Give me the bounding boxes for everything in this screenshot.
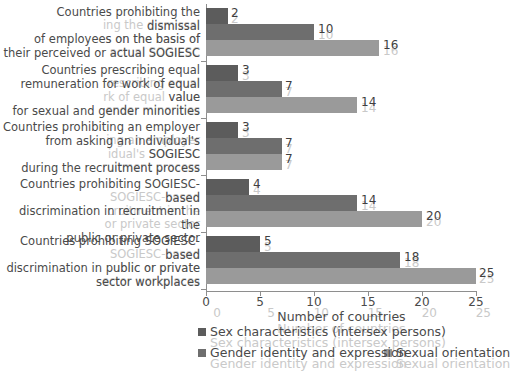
- value-label-2-0: 33: [242, 121, 250, 133]
- value-label-3-1: 1414: [361, 194, 376, 206]
- bar-sexual-orientation-2: [206, 154, 282, 170]
- bar-sex-characteristics-4: [206, 236, 260, 252]
- category-label-4-line-1: discrimination in public or private: [6, 261, 200, 275]
- legend-swatch-icon-gender-identity: [198, 349, 206, 357]
- bar-sexual-orientation-0: [206, 40, 379, 56]
- category-label-0-line-2: their perceived or actual SOGIESC: [4, 46, 200, 60]
- value-label-1-0: 33: [242, 64, 250, 76]
- value-label-4-1: 1818: [404, 251, 419, 263]
- category-label-4-line-2: sector workplaces: [96, 275, 200, 289]
- value-label-1-1: 77: [285, 80, 293, 92]
- category-label-0-line-0: Countries prohibiting the dismissal: [57, 5, 200, 33]
- bar-gender-identity-4: [206, 252, 400, 268]
- category-label-3-line-0: Countries prohibiting SOGIESC-based: [20, 177, 200, 205]
- x-tick-label-20: 2020: [407, 296, 437, 308]
- x-axis-title: Number of countries Number of countries: [206, 310, 477, 323]
- x-axis-line: [206, 291, 477, 292]
- bar-gender-identity-2: [206, 138, 282, 154]
- category-label-4: Countries prohibiting SOGIESC-based disc…: [2, 235, 200, 289]
- x-tick-label-15: 1515: [353, 296, 383, 308]
- bar-sex-characteristics-0: [206, 8, 228, 24]
- x-tick-label-0: 00: [191, 296, 221, 308]
- x-tick-label-5: 55: [245, 296, 275, 308]
- bar-sex-characteristics-1: [206, 65, 238, 81]
- category-label-1-line-1: remuneration for work of equal value: [21, 77, 200, 105]
- bar-sexual-orientation-1: [206, 97, 357, 113]
- value-label-0-1: 1010: [318, 23, 333, 35]
- plot-area: 22 1010 1616 33 77 1414 33 77 77 44: [206, 4, 476, 290]
- value-label-2-2: 77: [285, 153, 293, 165]
- value-label-1-2: 1414: [361, 96, 376, 108]
- category-label-2-line-2: during the recruitment process: [21, 161, 200, 175]
- category-label-1-line-2: for sexual and gender minorities: [13, 104, 200, 118]
- legend-item-sex-characteristics[interactable]: Sex characteristics (intersex persons)Se…: [198, 325, 446, 338]
- legend-item-sexual-orientation[interactable]: Sexual orientationSexual orientation: [384, 346, 510, 359]
- value-label-4-0: 55: [264, 235, 272, 247]
- bar-gender-identity-3: [206, 195, 357, 211]
- legend-label-gender-identity: Gender identity and expression: [210, 345, 407, 360]
- legend-label-sex-characteristics: Sex characteristics (intersex persons): [210, 324, 446, 339]
- x-tick-label-10: 1010: [299, 296, 329, 308]
- category-label-2-line-0: Countries prohibiting an employer: [3, 120, 200, 134]
- category-label-0: Countries prohibiting the dismissal of e…: [2, 6, 200, 60]
- category-label-4-line-0: Countries prohibiting SOGIESC-based: [20, 234, 200, 262]
- legend-label-sexual-orientation: Sexual orientation: [396, 345, 510, 360]
- bar-gender-identity-1: [206, 81, 282, 97]
- category-label-2-line-1: from asking an individual's SOGIESC: [45, 134, 200, 162]
- x-tick-label-25: 2525: [461, 296, 491, 308]
- value-label-0-2: 1616: [383, 39, 398, 51]
- bar-sex-characteristics-3: [206, 179, 249, 195]
- legend-item-gender-identity[interactable]: Gender identity and expressionGender ide…: [198, 346, 407, 359]
- legend-row-0: Sex characteristics (intersex persons)Se…: [198, 325, 490, 341]
- category-label-2: Countries prohibiting an employer from a…: [2, 121, 200, 175]
- category-label-1-line-0: Countries prescribing equal: [41, 63, 200, 77]
- category-label-1: Countries prescribing equal remuneration…: [2, 64, 200, 118]
- category-label-3-line-1: discrimination in recruitment in the: [19, 204, 200, 232]
- bar-sexual-orientation-4: [206, 268, 476, 284]
- value-label-2-1: 77: [285, 137, 293, 149]
- bar-sexual-orientation-3: [206, 211, 422, 227]
- value-label-3-0: 44: [253, 178, 261, 190]
- value-label-4-2: 2525: [479, 267, 494, 279]
- value-label-3-2: 2020: [426, 210, 441, 222]
- legend-swatch-icon-sex-characteristics: [198, 328, 206, 336]
- bar-gender-identity-0: [206, 24, 314, 40]
- bar-sex-characteristics-2: [206, 122, 238, 138]
- value-label-0-0: 22: [231, 7, 239, 19]
- legend-row-1: Gender identity and expressionGender ide…: [198, 346, 490, 362]
- chart-legend: Sex characteristics (intersex persons)Se…: [198, 325, 490, 362]
- category-label-0-line-1: of employees on the basis of: [34, 32, 200, 46]
